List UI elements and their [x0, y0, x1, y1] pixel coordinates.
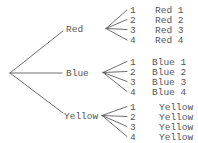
- fan-line: [106, 20, 127, 29]
- branch-line-red: [10, 31, 63, 73]
- blue-fan-lines: [103, 62, 127, 92]
- node-number: 4: [130, 132, 136, 143]
- text-layer: Red Blue Yellow 1 2 3 4 Red 1 Red 2 Red …: [64, 5, 194, 143]
- fan-line: [106, 29, 127, 30]
- outcome-label: Blue 4: [152, 87, 187, 98]
- fan-line: [102, 116, 127, 127]
- fan-line: [106, 10, 127, 29]
- fan-line: [102, 116, 127, 137]
- root-branch-lines: [10, 31, 63, 113]
- node-number: 4: [130, 87, 136, 98]
- node-number: 4: [130, 35, 136, 46]
- fan-line: [103, 73, 127, 82]
- fan-line: [102, 116, 127, 117]
- red-fan-lines: [106, 10, 127, 40]
- tree-diagram-canvas: Red Blue Yellow 1 2 3 4 Red 1 Red 2 Red …: [0, 0, 198, 143]
- fan-line: [106, 29, 127, 41]
- branch-label-red: Red: [66, 24, 83, 35]
- fan-line: [102, 107, 127, 116]
- fan-line: [103, 62, 127, 73]
- branch-label-blue: Blue: [66, 68, 89, 79]
- yellow-fan-lines: [102, 107, 127, 137]
- fan-line: [103, 73, 127, 92]
- branch-label-yellow: Yellow: [64, 111, 99, 122]
- fan-line: [103, 72, 127, 73]
- branch-line-yellow: [10, 73, 63, 113]
- outcome-label: Red 4: [155, 35, 184, 46]
- outcome-label: Yellow: [159, 132, 194, 143]
- tree-diagram: Red Blue Yellow 1 2 3 4 Red 1 Red 2 Red …: [0, 0, 198, 143]
